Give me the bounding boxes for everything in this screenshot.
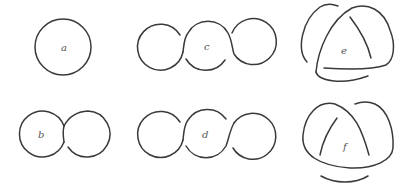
- knot-e-inner-strand: [350, 17, 371, 58]
- label-f: f: [342, 141, 349, 152]
- knot-diagram-figure: a b c d e: [0, 0, 407, 190]
- panel-f: f: [303, 102, 393, 182]
- knot-f-main-lobe: [303, 102, 393, 168]
- panel-c: c: [138, 19, 277, 71]
- panel-b: b: [19, 111, 110, 157]
- knot-c-left-loop: [138, 24, 183, 70]
- knot-d-right-loop: [233, 113, 276, 159]
- knot-e-bottom-arc: [316, 72, 368, 81]
- knot-b-right-loop: [64, 111, 110, 157]
- knot-f-bottom-arc: [321, 176, 368, 182]
- panel-e: e: [301, 4, 393, 81]
- panel-d: d: [138, 109, 276, 159]
- label-b: b: [38, 129, 44, 140]
- knot-c-crossing-left: [183, 19, 276, 65]
- label-d: d: [202, 129, 208, 140]
- knot-e-main-lobe: [316, 6, 393, 72]
- label-a: a: [61, 42, 67, 53]
- panel-a: a: [35, 19, 91, 75]
- knot-f-inner-strand: [320, 118, 337, 155]
- knot-b-crossing-understrand: [63, 126, 64, 142]
- label-c: c: [204, 41, 210, 52]
- label-e: e: [341, 45, 347, 56]
- knot-d-left-loop: [138, 111, 183, 157]
- knot-c-middle-lower-arc: [186, 59, 225, 70]
- knot-d-middle-lower: [186, 123, 234, 158]
